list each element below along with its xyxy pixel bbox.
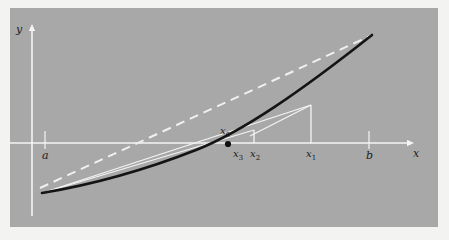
root-marker-x0 <box>225 141 231 147</box>
point-label-x1-sub: 1 <box>312 154 316 162</box>
point-label-x3-sub: 3 <box>239 154 243 162</box>
secant-line-1 <box>42 105 311 193</box>
point-label-x0-sub: 0 <box>226 131 230 139</box>
point-label-x3: x3 <box>233 149 243 162</box>
point-label-x2-sub: 2 <box>256 154 260 162</box>
tick-label-a: a <box>42 150 49 161</box>
figure-root: y x a b x0 x3 x2 x1 <box>0 0 449 240</box>
point-label-x2: x2 <box>250 149 260 162</box>
x-axis-label: x <box>413 148 419 159</box>
plot-canvas <box>10 8 438 227</box>
tick-label-b: b <box>366 150 373 161</box>
secant-x1-to-x2 <box>250 105 311 136</box>
point-label-x1: x1 <box>306 149 316 162</box>
point-label-x0: x0 <box>220 126 230 139</box>
function-curve <box>42 35 372 193</box>
y-axis-label: y <box>16 24 22 35</box>
plot-panel: y x a b x0 x3 x2 x1 <box>10 8 438 227</box>
chord-a-b-dashed <box>40 35 372 188</box>
